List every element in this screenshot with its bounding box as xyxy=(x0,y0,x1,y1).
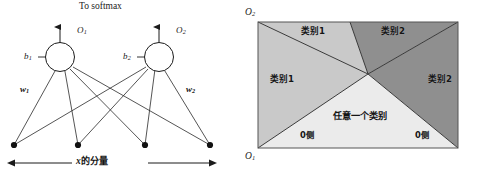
input-node xyxy=(11,142,17,148)
weight-edges-neuron1 xyxy=(14,62,210,145)
network-graphic xyxy=(0,0,238,180)
softmax-network-diagram: To softmax O1 O2 b1 b2 w1 w2 x的分量 xyxy=(0,0,238,180)
input-node xyxy=(142,142,148,148)
decision-region-plot: O2 O1 类别1 类别1 类别2 类别2 任意一个类别 0侧 0侧 xyxy=(238,0,480,180)
figure-root: To softmax O1 O2 b1 b2 w1 w2 x的分量 xyxy=(0,0,480,180)
input-node xyxy=(75,142,81,148)
decision-region-graphic xyxy=(238,0,480,180)
input-nodes xyxy=(11,142,213,148)
weight-edges-neuron2 xyxy=(14,63,210,145)
input-node xyxy=(207,142,213,148)
neuron-1 xyxy=(38,27,75,72)
neuron-2 xyxy=(137,27,174,72)
